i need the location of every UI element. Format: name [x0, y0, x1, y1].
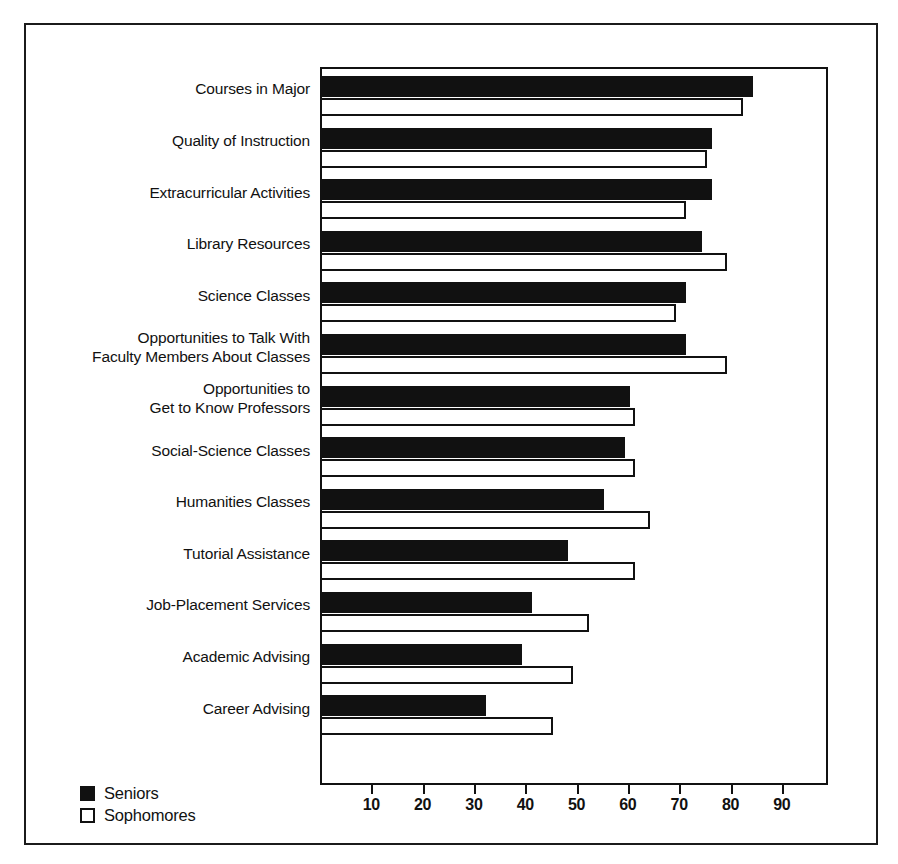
bar-sophomores [320, 614, 589, 632]
axis-tick [628, 785, 630, 794]
bar-seniors [320, 386, 630, 407]
category-label-line: Social-Science Classes [28, 441, 310, 460]
category-label: Social-Science Classes [28, 441, 310, 460]
bar-row [322, 585, 826, 637]
category-label-line: Academic Advising [28, 647, 310, 666]
bar-row [322, 224, 826, 276]
category-label-line: Opportunities to Talk With [28, 328, 310, 347]
bar-seniors [320, 282, 686, 303]
plot-area [320, 67, 828, 785]
legend-item: Seniors [80, 782, 196, 804]
bar-sophomores [320, 98, 743, 116]
category-label: Career Advising [28, 699, 310, 718]
bar-sophomores [320, 459, 635, 477]
category-label-line: Science Classes [28, 286, 310, 305]
category-label: Job-Placement Services [28, 595, 310, 614]
bar-row [322, 482, 826, 534]
category-label: Science Classes [28, 286, 310, 305]
bar-seniors [320, 489, 604, 510]
bar-row [322, 688, 826, 740]
bar-sophomores [320, 408, 635, 426]
axis-tick-label: 20 [414, 796, 431, 814]
axis-tick [474, 785, 476, 794]
axis-tick [371, 785, 373, 794]
bar-row [322, 172, 826, 224]
category-axis-labels: Courses in MajorQuality of InstructionEx… [26, 67, 318, 785]
category-label: Academic Advising [28, 647, 310, 666]
bar-row [322, 121, 826, 173]
bar-row [322, 533, 826, 585]
axis-tick-label: 10 [363, 796, 380, 814]
bar-seniors [320, 334, 686, 355]
legend-label: Sophomores [104, 806, 196, 825]
category-label: Opportunities to Talk WithFaculty Member… [28, 328, 310, 366]
category-label-line: Quality of Instruction [28, 131, 310, 150]
bar-row [322, 430, 826, 482]
bar-sophomores [320, 562, 635, 580]
figure-frame: Courses in MajorQuality of InstructionEx… [24, 23, 878, 845]
bar-seniors [320, 695, 486, 716]
axis-tick-label: 90 [773, 796, 790, 814]
bar-sophomores [320, 304, 676, 322]
category-label-line: Courses in Major [28, 79, 310, 98]
bar-seniors [320, 179, 712, 200]
bar-sophomores [320, 511, 650, 529]
category-label: Extracurricular Activities [28, 183, 310, 202]
bar-sophomores [320, 717, 553, 735]
bar-row [322, 637, 826, 689]
bar-sophomores [320, 666, 573, 684]
bar-row [322, 275, 826, 327]
axis-tick [423, 785, 425, 794]
bar-row [322, 379, 826, 431]
bar-seniors [320, 76, 753, 97]
category-label: Opportunities toGet to Know Professors [28, 379, 310, 417]
category-label: Courses in Major [28, 79, 310, 98]
legend-item: Sophomores [80, 804, 196, 826]
value-axis: 102030405060708090 [320, 785, 828, 829]
category-label-line: Library Resources [28, 234, 310, 253]
bar-sophomores [320, 150, 707, 168]
chart-legend: SeniorsSophomores [80, 782, 196, 826]
axis-tick [525, 785, 527, 794]
bar-row [322, 69, 826, 121]
bar-seniors [320, 540, 568, 561]
category-label: Quality of Instruction [28, 131, 310, 150]
axis-tick-label: 30 [465, 796, 482, 814]
category-label-line: Extracurricular Activities [28, 183, 310, 202]
bar-sophomores [320, 356, 727, 374]
category-label-line: Opportunities to [28, 379, 310, 398]
category-label-line: Job-Placement Services [28, 595, 310, 614]
bar-seniors [320, 437, 625, 458]
category-label-line: Get to Know Professors [28, 398, 310, 417]
axis-tick [782, 785, 784, 794]
axis-tick [577, 785, 579, 794]
axis-tick-label: 60 [619, 796, 636, 814]
bar-sophomores [320, 201, 686, 219]
bar-sophomores [320, 253, 727, 271]
bar-seniors [320, 128, 712, 149]
legend-swatch-seniors [80, 786, 95, 801]
bar-rows [322, 69, 826, 783]
horizontal-bar-chart: Courses in MajorQuality of InstructionEx… [26, 25, 876, 843]
bar-seniors [320, 592, 532, 613]
legend-swatch-sophomores [80, 808, 95, 823]
axis-tick-label: 80 [722, 796, 739, 814]
category-label: Tutorial Assistance [28, 544, 310, 563]
axis-tick-label: 40 [517, 796, 534, 814]
category-label: Library Resources [28, 234, 310, 253]
category-label-line: Tutorial Assistance [28, 544, 310, 563]
category-label-line: Faculty Members About Classes [28, 347, 310, 366]
bar-seniors [320, 644, 522, 665]
bar-row [322, 327, 826, 379]
category-label-line: Humanities Classes [28, 492, 310, 511]
axis-tick [679, 785, 681, 794]
axis-tick-label: 70 [671, 796, 688, 814]
axis-tick-label: 50 [568, 796, 585, 814]
axis-tick [731, 785, 733, 794]
category-label: Humanities Classes [28, 492, 310, 511]
bar-seniors [320, 231, 702, 252]
legend-label: Seniors [104, 784, 159, 803]
category-label-line: Career Advising [28, 699, 310, 718]
